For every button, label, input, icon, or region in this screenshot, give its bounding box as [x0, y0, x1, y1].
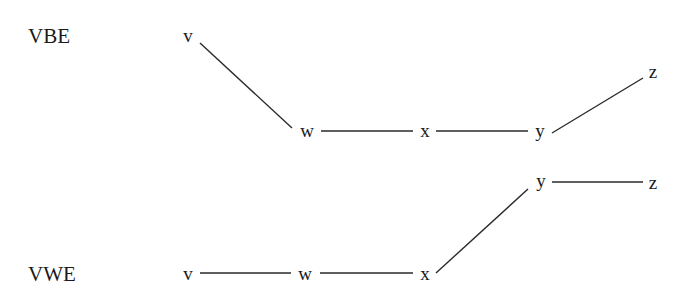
node-z: z [649, 61, 657, 82]
node-v: v [183, 263, 193, 284]
row-vbe: VBE v w x y z [28, 24, 657, 141]
edge-v-w [200, 43, 292, 128]
tree-diagram: VBE v w x y z VWE v w x y z [0, 0, 682, 299]
edge-y-z [552, 78, 643, 133]
node-v: v [183, 25, 193, 46]
node-z: z [649, 172, 657, 193]
row-vwe: VWE v w x y z [28, 170, 657, 286]
edge-x-y [436, 189, 528, 273]
node-x: x [420, 263, 430, 284]
row-label-vwe: VWE [28, 262, 76, 286]
node-w: w [300, 120, 314, 141]
node-x: x [420, 120, 430, 141]
node-y: y [536, 170, 546, 191]
node-w: w [298, 263, 312, 284]
node-y: y [535, 120, 545, 141]
row-label-vbe: VBE [28, 24, 70, 48]
